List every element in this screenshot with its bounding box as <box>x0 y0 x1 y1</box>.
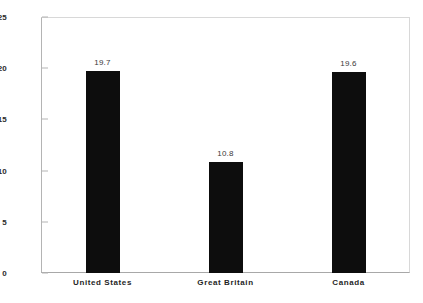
y-tick-label: 0 <box>2 269 7 278</box>
bars-layer: 19.7 10.8 19.6 <box>41 17 410 273</box>
bar-chart: 25 20 15 10 5 0 19.7 10.8 19.6 United St… <box>0 0 423 303</box>
bar-value-label: 19.7 <box>94 58 110 67</box>
y-axis: 25 20 15 10 5 0 <box>0 0 41 303</box>
x-axis-labels: United States Great Britain Canada <box>41 278 410 298</box>
bar[interactable] <box>86 71 120 273</box>
y-tick-label: 25 <box>0 13 7 22</box>
y-tick-label: 20 <box>0 64 7 73</box>
y-tick-label: 15 <box>0 115 7 124</box>
x-axis-label-canada: Canada <box>332 278 365 287</box>
bar-group: 10.8 <box>209 17 243 273</box>
bar-value-label: 19.6 <box>340 59 356 68</box>
y-tick-label: 10 <box>0 166 7 175</box>
x-axis-label-united-states: United States <box>73 278 132 287</box>
bar[interactable] <box>332 72 366 273</box>
bar-group: 19.6 <box>332 17 366 273</box>
bar[interactable] <box>209 162 243 273</box>
bar-value-label: 10.8 <box>217 149 233 158</box>
bar-group: 19.7 <box>86 17 120 273</box>
y-tick-label: 5 <box>2 217 7 226</box>
x-axis-label-great-britain: Great Britain <box>197 278 253 287</box>
